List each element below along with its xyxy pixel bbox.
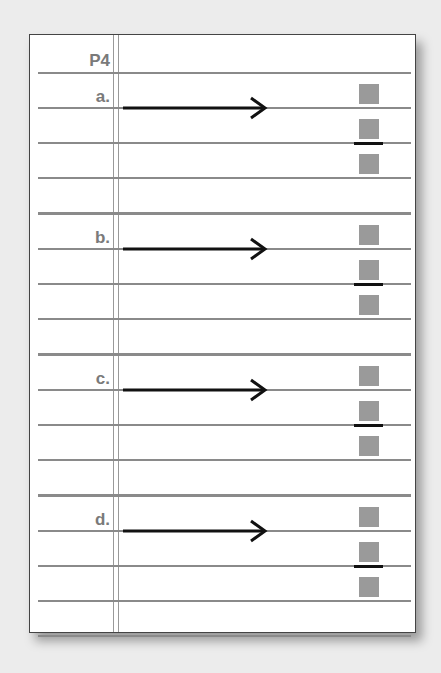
margin-line-right: [118, 35, 119, 632]
ruled-line: [38, 318, 411, 320]
worksheet: P4 a.b.c.d.: [29, 34, 416, 633]
answer-box[interactable]: [359, 507, 379, 527]
answer-box[interactable]: [359, 366, 379, 386]
answer-box[interactable]: [359, 154, 379, 174]
answer-box[interactable]: [359, 436, 379, 456]
ruled-line: [38, 635, 411, 637]
fraction-bar: [354, 424, 383, 427]
ruled-line: [38, 72, 411, 74]
ruled-line: [38, 600, 411, 602]
fraction-bar: [354, 565, 383, 568]
answer-box[interactable]: [359, 577, 379, 597]
fraction-bar: [354, 283, 383, 286]
answer-box[interactable]: [359, 260, 379, 280]
ruled-line: [38, 495, 411, 497]
arrow-right-icon: [123, 96, 268, 120]
margin-line-left: [113, 35, 114, 632]
arrow-right-icon: [123, 519, 268, 543]
item-label: d.: [30, 510, 110, 530]
item-label: b.: [30, 228, 110, 248]
fraction-bar: [354, 142, 383, 145]
answer-box[interactable]: [359, 542, 379, 562]
header-label: P4: [30, 51, 110, 71]
ruled-line: [38, 177, 411, 179]
arrow-right-icon: [123, 237, 268, 261]
answer-box[interactable]: [359, 225, 379, 245]
ruled-line: [38, 459, 411, 461]
answer-box[interactable]: [359, 295, 379, 315]
answer-box[interactable]: [359, 84, 379, 104]
item-label: a.: [30, 87, 110, 107]
item-label: c.: [30, 369, 110, 389]
answer-box[interactable]: [359, 401, 379, 421]
arrow-right-icon: [123, 378, 268, 402]
answer-box[interactable]: [359, 119, 379, 139]
ruled-line: [38, 354, 411, 356]
ruled-line: [38, 213, 411, 215]
